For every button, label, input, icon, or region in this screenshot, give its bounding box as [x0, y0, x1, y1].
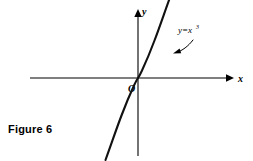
x-axis-arrowhead-icon	[226, 74, 234, 82]
y-axis-label: y	[141, 6, 147, 17]
figure-container: y x O y=x 3 Figure 6	[0, 0, 253, 161]
curve-equation-label: y=x	[177, 25, 192, 35]
y-axis-arrowhead-icon	[134, 9, 141, 17]
x-axis-label: x	[237, 73, 243, 84]
curve-equation-exponent: 3	[195, 24, 199, 30]
cubic-function-graph: y x O y=x 3	[0, 0, 253, 161]
figure-caption: Figure 6	[8, 123, 52, 135]
leader-arrowhead-icon	[173, 48, 181, 53]
